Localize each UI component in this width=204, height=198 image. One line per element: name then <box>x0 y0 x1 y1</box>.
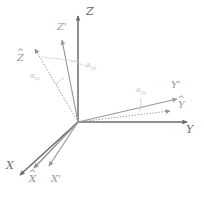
axis-line-Zprime <box>62 40 78 122</box>
angle-arc-alpha-zz <box>56 78 64 84</box>
axis-label-Y-hat: ^Y <box>178 100 185 110</box>
alpha-yz-subscript: yz <box>141 89 146 95</box>
alpha-zz-subscript: zz <box>35 75 40 81</box>
angle-label-alpha-yy: αyy <box>86 62 96 70</box>
axis-label-Z-prime: Z' <box>57 22 67 32</box>
axis-label-Z: Z <box>86 6 94 17</box>
angle-label-alpha-yz: αyz <box>136 87 146 95</box>
hat-accent-Y-icon: ^ <box>178 95 186 104</box>
axis-label-Z-hat: ^Z <box>17 53 24 63</box>
angle-label-alpha-zz: αzz <box>30 73 40 81</box>
axis-line-Yprime <box>78 99 177 122</box>
coordinate-axes-diagram: Z Y X Z' Y' X' ^Z ^Y ^X αzz αyy αyz <box>0 0 204 198</box>
axis-label-X-hat: ^X <box>29 174 36 184</box>
axis-label-Y: Y <box>186 124 193 135</box>
angle-arc-alpha-yz <box>140 98 141 111</box>
axis-label-X-prime: X' <box>51 174 61 184</box>
axis-line-Zhat <box>35 49 78 122</box>
alpha-yy-subscript: yy <box>91 64 97 70</box>
hat-accent-X-icon: ^ <box>29 169 37 178</box>
axis-label-Y-prime: Y' <box>171 80 180 90</box>
hat-accent-Z-icon: ^ <box>17 48 25 57</box>
axis-line-Yhat <box>78 111 170 122</box>
axis-label-X: X <box>6 160 14 171</box>
axis-line-Xhat <box>34 122 78 168</box>
